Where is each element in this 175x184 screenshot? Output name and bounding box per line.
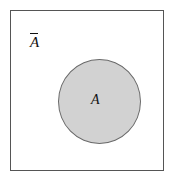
overbar-wrapper: A — [30, 33, 39, 50]
universal-set-rectangle: A A — [10, 10, 164, 171]
complement-label: A — [30, 33, 39, 50]
complement-label-text: A — [30, 34, 39, 50]
set-a-label: A — [91, 93, 100, 107]
venn-diagram: A A — [0, 0, 175, 184]
